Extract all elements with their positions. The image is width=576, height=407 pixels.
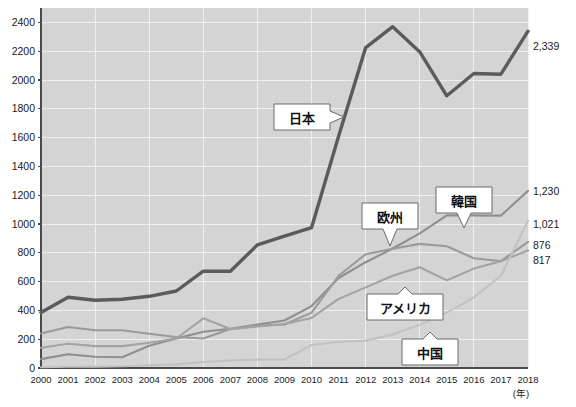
end-value-label: 2,339	[533, 40, 559, 52]
y-tick-label: 1800	[12, 102, 36, 114]
x-tick-label: 2001	[58, 374, 79, 385]
x-tick-label: 2013	[382, 374, 403, 385]
y-tick-label: 1000	[12, 218, 36, 230]
y-tick-label: 1400	[12, 160, 36, 172]
y-tick-label: 0	[29, 362, 35, 374]
x-tick-label: 2017	[490, 374, 511, 385]
x-tick-label: 2003	[112, 374, 133, 385]
x-tick-label: 2009	[274, 374, 295, 385]
end-value-label: 876	[533, 239, 551, 251]
x-tick-label: 2008	[247, 374, 268, 385]
y-tick-label: 800	[17, 246, 35, 258]
y-tick-label: 400	[17, 304, 35, 316]
x-tick-label: 2012	[355, 374, 376, 385]
y-tick-label: 2200	[12, 45, 36, 57]
x-tick-label: 2002	[85, 374, 106, 385]
chart-canvas: 0200400600800100012001400160018002000220…	[0, 0, 576, 407]
x-tick-label: 2005	[166, 374, 187, 385]
x-tick-label: 2010	[301, 374, 322, 385]
end-value-label: 1,230	[533, 185, 559, 197]
y-tick-label: 600	[17, 275, 35, 287]
y-tick-label: 1600	[12, 131, 36, 143]
line-chart-figure: 0200400600800100012001400160018002000220…	[0, 0, 576, 407]
end-value-label: 1,021	[533, 218, 559, 230]
callout-label: アメリカ	[380, 301, 431, 316]
x-tick-label: 2016	[463, 374, 484, 385]
x-tick-label: 2006	[193, 374, 214, 385]
x-tick-label: 2004	[139, 374, 160, 385]
callout-label: 日本	[289, 111, 315, 126]
x-axis-unit-label: (年)	[513, 388, 529, 399]
x-tick-label: 2015	[436, 374, 457, 385]
end-value-label: 817	[533, 254, 551, 266]
callout-label: 韓国	[451, 194, 477, 209]
x-tick-label: 2018	[517, 374, 538, 385]
x-tick-label: 2000	[30, 374, 51, 385]
y-tick-label: 2000	[12, 74, 36, 86]
x-tick-label: 2011	[328, 374, 348, 385]
y-tick-label: 1200	[12, 189, 36, 201]
x-tick-label: 2014	[409, 374, 430, 385]
y-tick-label: 2400	[12, 16, 36, 28]
x-tick-label: 2007	[220, 374, 241, 385]
y-tick-label: 200	[17, 333, 35, 345]
callout-label: 欧州	[377, 210, 403, 225]
callout-label: 中国	[417, 346, 443, 361]
